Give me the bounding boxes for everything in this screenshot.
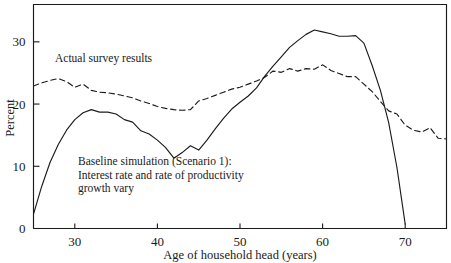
x-tick-label: 70 [399, 234, 412, 249]
annotation-line: Interest rate and rate of productivity [78, 169, 244, 182]
survey-annotation: Actual survey results [55, 52, 153, 65]
chart-background [0, 0, 451, 263]
annotation-line: Actual survey results [55, 52, 153, 65]
y-axis-title: Percent [3, 99, 17, 137]
line-chart: 3040506070 0102030 Actual survey results… [0, 0, 451, 263]
x-tick-label: 50 [234, 234, 247, 249]
annotation-line: Baseline simulation (Scenario 1): [78, 155, 232, 168]
x-tick-label: 30 [68, 234, 81, 249]
y-tick-label: 30 [13, 34, 26, 49]
chart-figure: 3040506070 0102030 Actual survey results… [0, 0, 451, 263]
x-axis-title: Age of household head (years) [163, 248, 316, 262]
y-tick-label: 10 [13, 159, 26, 174]
x-tick-label: 40 [151, 234, 164, 249]
y-tick-label: 0 [19, 221, 26, 236]
annotation-line: growth vary [78, 182, 134, 195]
x-tick-label: 60 [316, 234, 329, 249]
